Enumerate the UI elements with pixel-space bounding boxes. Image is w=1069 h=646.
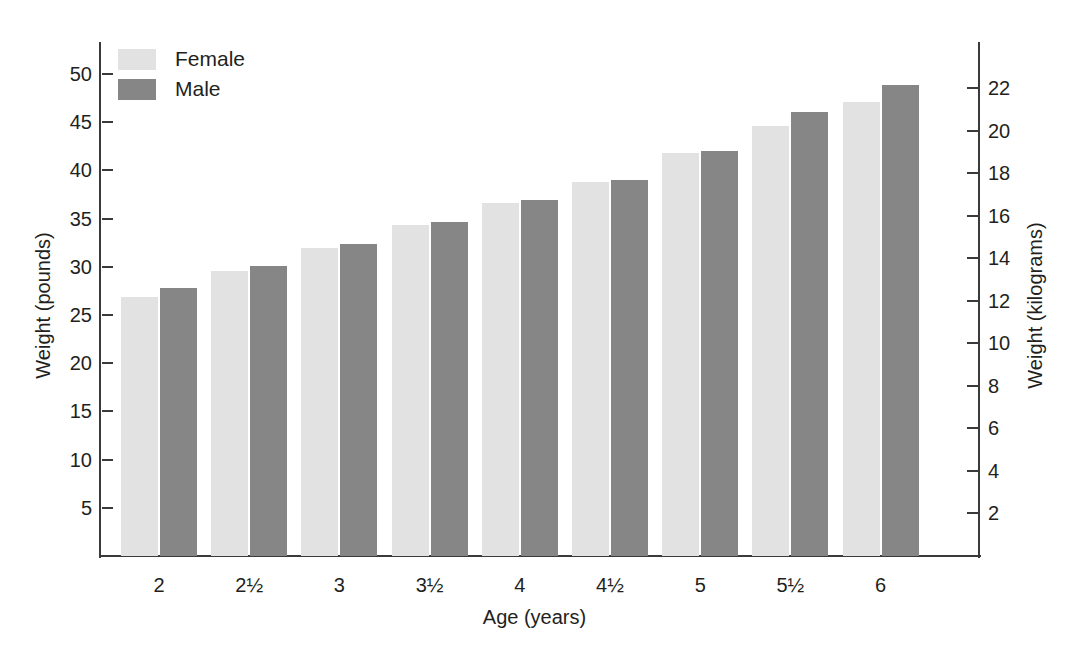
y-axis-left-tick bbox=[102, 507, 113, 509]
y-axis-left-tick-label: 5 bbox=[81, 498, 92, 518]
x-axis-label-6: 5 bbox=[660, 574, 740, 597]
x-axis-title: Age (years) bbox=[0, 606, 1069, 629]
y-axis-right-tick bbox=[967, 385, 978, 387]
y-axis-right-tick bbox=[967, 215, 978, 217]
bar-male-age-2 bbox=[160, 288, 197, 556]
bar-male-age-2½ bbox=[250, 266, 287, 556]
x-axis-label-8: 6 bbox=[841, 574, 921, 597]
y-axis-left-tick-label: 45 bbox=[70, 112, 92, 132]
bar-male-age-5½ bbox=[791, 112, 828, 556]
y-axis-right-tick-label: 10 bbox=[988, 333, 1010, 353]
bar-male-age-4 bbox=[521, 200, 558, 556]
y-axis-left-tick bbox=[102, 410, 113, 412]
legend-swatch-male bbox=[118, 79, 156, 100]
y-axis-left-title: Weight (pounds) bbox=[32, 206, 55, 406]
bar-female-age-3 bbox=[301, 248, 338, 556]
legend-swatch-female bbox=[118, 49, 156, 70]
x-axis-label-2: 3 bbox=[299, 574, 379, 597]
y-axis-left-tick bbox=[102, 314, 113, 316]
bar-male-age-3 bbox=[340, 244, 377, 556]
y-axis-right-tick-label: 16 bbox=[988, 206, 1010, 226]
y-axis-right-tick bbox=[967, 300, 978, 302]
y-axis-left-tick bbox=[102, 73, 113, 75]
legend-item-female: Female bbox=[118, 44, 245, 74]
y-axis-right-tick bbox=[967, 257, 978, 259]
y-axis-right-tick-label: 22 bbox=[988, 78, 1010, 98]
bar-female-age-4 bbox=[482, 203, 519, 556]
legend-label-female: Female bbox=[175, 47, 245, 71]
y-axis-left-tick-label: 20 bbox=[70, 353, 92, 373]
bar-female-age-5 bbox=[662, 153, 699, 556]
bar-female-age-2½ bbox=[211, 271, 248, 556]
bar-female-age-3½ bbox=[392, 225, 429, 556]
y-axis-left-tick bbox=[102, 266, 113, 268]
x-axis-label-4: 4 bbox=[480, 574, 560, 597]
y-axis-left-tick bbox=[102, 121, 113, 123]
y-axis-left-tick-label: 15 bbox=[70, 401, 92, 421]
y-axis-right-tick bbox=[967, 470, 978, 472]
x-axis-label-7: 5½ bbox=[750, 574, 830, 597]
y-axis-right-tick-label: 18 bbox=[988, 163, 1010, 183]
y-axis-right-tick-label: 2 bbox=[988, 503, 999, 523]
y-axis-right-tick-label: 4 bbox=[988, 461, 999, 481]
y-axis-right-tick bbox=[967, 130, 978, 132]
x-axis-label-0: 2 bbox=[119, 574, 199, 597]
legend-label-male: Male bbox=[175, 77, 221, 101]
y-axis-left-tick-label: 40 bbox=[70, 160, 92, 180]
y-axis-right-tick-label: 14 bbox=[988, 248, 1010, 268]
x-axis-label-3: 3½ bbox=[390, 574, 470, 597]
chart-legend: FemaleMale bbox=[118, 44, 245, 104]
bar-male-age-6 bbox=[882, 85, 919, 556]
bar-female-age-4½ bbox=[572, 182, 609, 556]
legend-item-male: Male bbox=[118, 74, 245, 104]
y-axis-right-line bbox=[978, 42, 980, 558]
bar-female-age-5½ bbox=[752, 126, 789, 556]
y-axis-left-tick-label: 25 bbox=[70, 305, 92, 325]
bar-male-age-3½ bbox=[431, 222, 468, 556]
y-axis-right-tick bbox=[967, 427, 978, 429]
bar-female-age-6 bbox=[843, 102, 880, 556]
y-axis-left-tick-label: 50 bbox=[70, 64, 92, 84]
bar-male-age-4½ bbox=[611, 180, 648, 556]
y-axis-right-title: Weight (kilograms) bbox=[1024, 206, 1047, 406]
y-axis-right-tick bbox=[967, 87, 978, 89]
y-axis-right-tick-label: 8 bbox=[988, 376, 999, 396]
y-axis-left-tick bbox=[102, 218, 113, 220]
y-axis-left-line bbox=[99, 42, 101, 558]
bar-female-age-2 bbox=[121, 297, 158, 556]
y-axis-left-tick bbox=[102, 362, 113, 364]
y-axis-left-tick bbox=[102, 169, 113, 171]
y-axis-right-tick bbox=[967, 512, 978, 514]
y-axis-right-tick bbox=[967, 342, 978, 344]
y-axis-right-tick-label: 6 bbox=[988, 418, 999, 438]
x-axis-label-1: 2½ bbox=[209, 574, 289, 597]
y-axis-left-tick-label: 10 bbox=[70, 450, 92, 470]
bar-male-age-5 bbox=[701, 151, 738, 556]
y-axis-left-tick-label: 30 bbox=[70, 257, 92, 277]
y-axis-right-tick-label: 20 bbox=[988, 121, 1010, 141]
x-axis-label-5: 4½ bbox=[570, 574, 650, 597]
y-axis-left-tick-label: 35 bbox=[70, 209, 92, 229]
y-axis-right-tick bbox=[967, 172, 978, 174]
y-axis-left-tick bbox=[102, 459, 113, 461]
y-axis-right-tick-label: 12 bbox=[988, 291, 1010, 311]
chart-canvas: 5101520253035404550 246810121416182022 2… bbox=[0, 0, 1069, 646]
